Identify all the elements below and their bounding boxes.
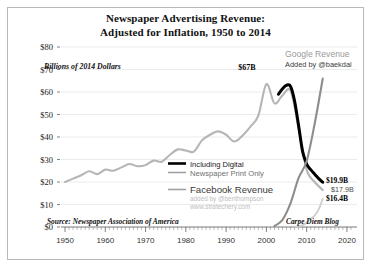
x-tick-label: 1990: [217, 236, 235, 245]
x-axis: [61, 227, 357, 232]
y-axis-title: Billions of 2014 Dollars: [43, 62, 121, 71]
y-tick-label: $40: [40, 132, 53, 142]
y-tick-label: $50: [40, 110, 53, 120]
series-line-google-revenue: [274, 79, 322, 227]
x-tick-label: 2010: [298, 236, 316, 245]
chart-canvas: $0$10$20$30$40$50$60$70$80 1950196019701…: [0, 0, 371, 267]
google-attribution-annotation: Added by @baekdal: [285, 60, 352, 69]
peak-annotation: $67B: [238, 63, 256, 72]
x-tick-label: 1960: [96, 236, 114, 245]
y-tick-label: $30: [40, 155, 53, 165]
legend-label-including-digital: Including Digital: [190, 160, 244, 169]
legend-credit-benthompson: added by @benthompson: [190, 195, 264, 203]
x-tick-label: 1970: [137, 236, 155, 245]
y-axis-ticks: [57, 47, 60, 227]
x-tick-label: 2000: [257, 236, 275, 245]
google-revenue-annotation: Google Revenue: [285, 49, 350, 59]
y-tick-label: $20: [40, 177, 53, 187]
chart-legend: Including Digital Newspaper Print Only F…: [168, 160, 273, 212]
carpe-diem-annotation: Carpe Diem Blog: [286, 217, 339, 226]
x-tick-label: 2020: [338, 236, 356, 245]
series-line-including-digital: [278, 85, 322, 183]
y-tick-label: $60: [40, 87, 53, 97]
value-label-print-only: $16.4B: [326, 194, 348, 203]
source-annotation: Source: Newspaper Association of America: [47, 217, 179, 226]
legend-label-print-only: Newspaper Print Only: [190, 169, 264, 178]
legend-label-facebook: Facebook Revenue: [190, 184, 273, 195]
chart-figure: Newspaper Advertising Revenue: Adjusted …: [0, 0, 371, 267]
x-tick-label: 1980: [177, 236, 195, 245]
value-label-including-digital: $19.9B: [326, 176, 348, 185]
legend-credit-stratechery: www.stratechery.com: [189, 203, 250, 211]
y-tick-label: $80: [40, 42, 53, 52]
x-tick-label: 1950: [56, 236, 74, 245]
y-tick-label: $10: [40, 200, 53, 210]
value-label-facebook: $17.9B: [331, 185, 354, 194]
x-axis-labels: 19501960197019801990200020102020: [56, 236, 356, 245]
